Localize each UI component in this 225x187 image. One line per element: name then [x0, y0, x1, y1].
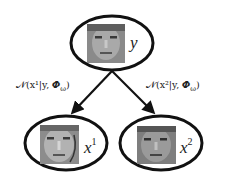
edge1-close: ): [66, 79, 70, 90]
edge2-text: 𝒩(x²|y, 𝜱: [146, 79, 190, 90]
node-x1-label: x1: [84, 136, 97, 158]
node-x2-sup: 2: [188, 136, 193, 147]
edge2-close: ): [196, 79, 200, 90]
edge-y-x1-label: 𝒩(x¹|y, 𝜱ω): [16, 79, 70, 93]
edge-y-x1-arrow: [73, 71, 112, 112]
face-image-y: [87, 24, 125, 63]
face-image-x2: [137, 126, 176, 164]
node-y-label: y: [130, 33, 138, 53]
face-image-x1: [40, 125, 79, 164]
node-x2-label: x2: [180, 136, 193, 158]
edge1-text: 𝒩(x¹|y, 𝜱: [16, 79, 60, 90]
node-x2-base: x: [180, 138, 188, 157]
node-x1-base: x: [84, 138, 92, 157]
diagram-canvas: [0, 0, 225, 187]
edge-y-x2-label: 𝒩(x²|y, 𝜱ω): [146, 79, 200, 93]
node-x1-sup: 1: [92, 136, 97, 147]
